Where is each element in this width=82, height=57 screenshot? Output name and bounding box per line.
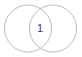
venn-diagram: 1 <box>0 0 82 57</box>
venn-intersection-count-label: 1 <box>37 22 43 34</box>
venn-diagram-canvas: 1 <box>0 0 82 57</box>
